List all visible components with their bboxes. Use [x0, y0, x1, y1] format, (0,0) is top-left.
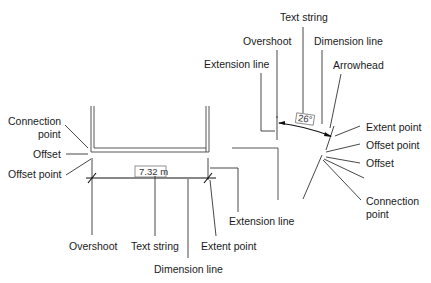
leader-arrowhead: [330, 74, 341, 128]
label-dimension-line-angular: Dimension line: [314, 35, 383, 47]
label-connection-point-1: Connection: [8, 115, 61, 127]
leader-connection-point: [65, 125, 88, 148]
arrowhead-left: [278, 121, 285, 125]
label-arrowhead: Arrowhead: [333, 59, 384, 71]
leader-offset-point: [66, 159, 91, 175]
wall-left: [91, 106, 94, 152]
label-extent-point: Extent point: [201, 240, 257, 252]
wall-bottom: [91, 148, 209, 152]
label-extension-line: Extension line: [229, 215, 295, 227]
linear-dimension-group: 7.32 m Connection point Offset Offset po…: [8, 106, 295, 275]
label-overshoot: Overshoot: [69, 240, 118, 252]
angled-wall: [303, 155, 322, 199]
label-text-string: Text string: [131, 240, 179, 252]
label-offset-angular: Offset: [366, 157, 394, 169]
label-text-string-angular: Text string: [280, 11, 328, 23]
leader-extension-line: [210, 168, 238, 212]
leader-extension-line-angular: [261, 73, 275, 131]
wall-right: [206, 106, 209, 152]
label-offset-point: Offset point: [8, 168, 62, 180]
label-connection-point-angular-1: Connection: [366, 195, 419, 207]
leader-offset-extra: [324, 159, 364, 178]
label-dimension-line: Dimension line: [154, 263, 223, 275]
label-overshoot-angular: Overshoot: [243, 35, 292, 47]
leader-extent-point: [335, 126, 360, 136]
label-offset-point-angular: Offset point: [366, 139, 420, 151]
angular-dimension-group: 26° Text string Overshoot Dimension line…: [204, 11, 422, 220]
dimension-anatomy-diagram: 7.32 m Connection point Offset Offset po…: [0, 0, 431, 283]
label-connection-point-2: point: [38, 128, 61, 140]
label-connection-point-angular-2: point: [366, 208, 389, 220]
angular-dimension-arc: [279, 123, 331, 136]
label-extent-point-angular: Extent point: [366, 121, 422, 133]
label-extension-line-angular: Extension line: [204, 58, 270, 70]
leader-offset-point: [326, 144, 360, 152]
leader-connection-point-angular: [323, 160, 361, 200]
dimension-value: 7.32 m: [139, 166, 168, 177]
leader-extent-point: [210, 180, 216, 236]
extension-line-angled: [326, 126, 334, 150]
label-offset: Offset: [33, 148, 61, 160]
angle-value: 26°: [297, 112, 313, 125]
